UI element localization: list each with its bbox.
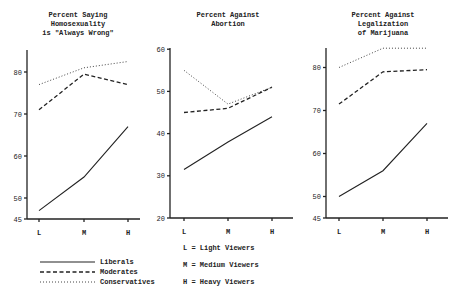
series-line-conservatives [339,48,427,67]
y-tick-label: 60 [157,46,165,54]
y-tick-label: 80 [14,69,22,77]
y-tick-label: 50 [157,88,165,96]
chart-title: Legalization [358,20,408,28]
chart-panel-3: Percent AgainstLegalizationof Marijuana4… [313,11,448,236]
chart-title: Percent Against [351,11,414,19]
viewer-key-label: H = Heavy Viewers [183,278,254,286]
y-tick-label: 80 [313,64,321,72]
viewer-key-label: M = Medium Viewers [183,261,259,269]
series-line-conservatives [39,62,128,85]
y-tick-label: 45 [313,215,321,223]
y-tick-label: 40 [157,130,165,138]
y-tick-label: 70 [14,111,22,119]
x-tick-label: L [37,229,41,237]
y-tick-label: 60 [14,153,22,161]
chart-title: Percent Against [196,11,259,19]
y-tick-label: 50 [313,193,321,201]
chart-title: of Marijuana [358,29,409,37]
x-tick-label: H [425,228,429,236]
series-line-moderates [39,74,128,110]
chart-panel-2: Percent AgainstAbortion2030405060LMH [157,11,293,236]
y-tick-label: 70 [313,107,321,115]
y-tick-label: 60 [313,150,321,158]
x-tick-label: L [182,228,186,236]
series-line-liberals [184,117,272,170]
chart-figure: Percent SayingHomosexualityis "Always Wr… [0,0,459,298]
legend-label-liberals: Liberals [100,258,134,266]
chart-title: is "Always Wrong" [42,29,113,37]
legend: LiberalsModeratesConservativesL = Light … [40,244,259,286]
x-tick-label: H [270,228,274,236]
y-tick-label: 20 [157,215,165,223]
x-tick-label: M [226,228,230,236]
x-tick-label: M [381,228,385,236]
series-line-moderates [339,70,427,104]
x-tick-label: L [337,228,341,236]
series-line-conservatives [184,70,272,104]
legend-label-conservatives: Conservatives [100,278,155,286]
x-tick-label: M [82,229,86,237]
x-tick-label: H [126,229,130,237]
series-line-liberals [339,123,427,196]
chart-title: Percent Saying [49,11,108,19]
y-tick-label: 30 [157,172,165,180]
chart-title: Homosexuality [51,20,106,28]
y-tick-label: 50 [14,195,22,203]
viewer-key-label: L = Light Viewers [183,244,254,252]
legend-label-moderates: Moderates [100,268,138,276]
series-line-moderates [184,87,272,112]
y-tick-label: 45 [14,216,22,224]
chart-panel-1: Percent SayingHomosexualityis "Always Wr… [14,11,140,237]
chart-title: Abortion [211,20,245,28]
series-line-liberals [39,127,128,211]
